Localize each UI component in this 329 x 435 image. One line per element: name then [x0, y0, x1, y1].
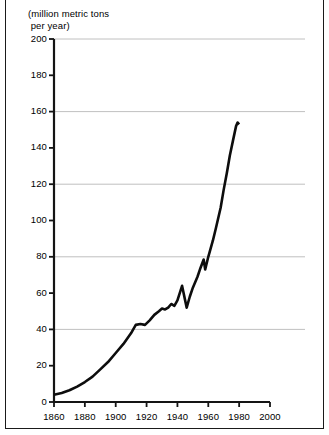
y-tick-label-160: 160 [19, 105, 47, 116]
y-tick-label-100: 100 [19, 214, 47, 225]
gridlines-group [54, 39, 305, 329]
line-chart-plot [0, 0, 329, 435]
y-tick-label-80: 80 [19, 250, 47, 261]
y-tick-label-20: 20 [19, 359, 47, 370]
y-tick-label-200: 200 [19, 33, 47, 44]
x-tick-label-2000: 2000 [250, 411, 290, 422]
data-series-line [54, 122, 239, 394]
y-tick-label-120: 120 [19, 178, 47, 189]
y-tick-label-60: 60 [19, 287, 47, 298]
y-tick-label-180: 180 [19, 69, 47, 80]
chart-figure: (million metric tons per year) 020406080… [0, 0, 329, 435]
y-tick-label-40: 40 [19, 323, 47, 334]
y-tick-label-140: 140 [19, 141, 47, 152]
y-tick-label-0: 0 [19, 396, 47, 407]
